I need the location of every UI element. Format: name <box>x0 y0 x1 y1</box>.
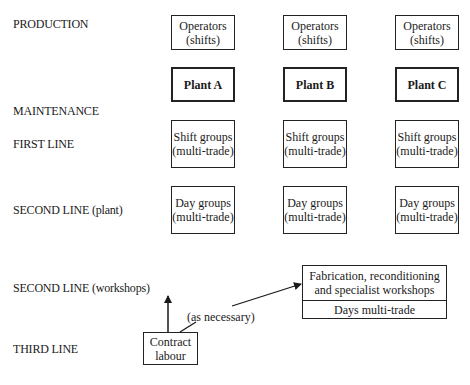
arrow-to-workshops-2 <box>232 284 301 306</box>
as-necessary-note: (as necessary) <box>187 310 255 325</box>
arrows <box>0 0 470 385</box>
